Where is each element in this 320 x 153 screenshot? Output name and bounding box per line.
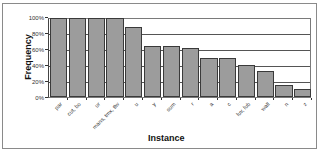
- y-axis-title: Frequency: [23, 27, 33, 87]
- plot-area: [48, 18, 311, 98]
- x-tick-mark: [292, 98, 293, 100]
- y-tick-label: 0%: [18, 95, 44, 101]
- x-tick-mark: [104, 98, 105, 100]
- x-tick-mark: [67, 98, 68, 100]
- x-tick-mark: [217, 98, 218, 100]
- x-axis-title: Instance: [148, 133, 185, 143]
- x-tick-mark: [273, 98, 274, 100]
- bar: [125, 27, 142, 97]
- bar: [182, 48, 199, 97]
- bar: [200, 58, 217, 98]
- bar: [106, 18, 123, 97]
- x-tick-mark: [180, 98, 181, 100]
- bar: [275, 85, 292, 97]
- y-tick-label: 100%: [18, 15, 44, 21]
- bar: [163, 46, 180, 97]
- bar: [219, 58, 236, 98]
- bar: [238, 65, 255, 97]
- x-tick-mark: [311, 98, 312, 100]
- x-tick-mark: [255, 98, 256, 100]
- bar: [88, 18, 105, 97]
- bar: [294, 89, 311, 97]
- bar: [50, 18, 67, 97]
- x-tick-mark: [198, 98, 199, 100]
- bar: [69, 18, 86, 97]
- x-tick-mark: [161, 98, 162, 100]
- x-tick-mark: [86, 98, 87, 100]
- bar: [257, 71, 274, 97]
- x-tick-mark: [123, 98, 124, 100]
- bar: [144, 46, 161, 97]
- x-tick-mark: [142, 98, 143, 100]
- x-tick-mark: [236, 98, 237, 100]
